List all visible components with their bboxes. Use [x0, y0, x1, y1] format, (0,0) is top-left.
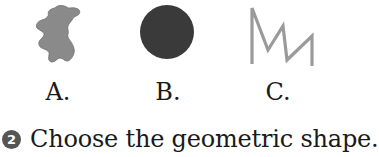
- circle-icon: [139, 4, 195, 60]
- option-b-label: B.: [148, 78, 188, 106]
- option-a-blob-shape[interactable]: [34, 4, 82, 64]
- option-c-label: C.: [258, 78, 298, 106]
- option-b-circle-shape[interactable]: [139, 4, 195, 60]
- zigzag-icon: [246, 4, 318, 66]
- option-c-zigzag-shape[interactable]: [246, 4, 318, 66]
- question-prompt: 2 Choose the geometric shape.: [2, 124, 379, 154]
- option-a-label: A.: [38, 78, 78, 106]
- question-number-badge: 2: [2, 130, 21, 149]
- blob-icon: [34, 4, 82, 64]
- question-text: Choose the geometric shape.: [30, 124, 379, 154]
